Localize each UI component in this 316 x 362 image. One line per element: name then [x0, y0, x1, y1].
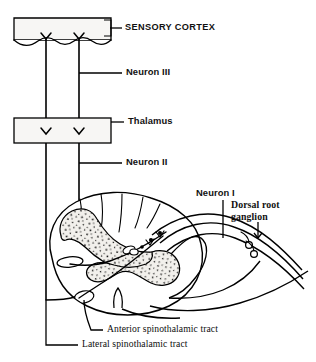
dorsal-horn-cell	[130, 249, 138, 255]
diagram-root: SENSORY CORTEX Neuron III Thalamus Neuro…	[0, 0, 316, 362]
label-neuron-i: Neuron I	[196, 188, 235, 199]
label-anterior-spinothalamic-tract: Anterior spinothalamic tract	[107, 324, 218, 335]
spinothalamic-tract-illustration	[0, 0, 316, 362]
thalamus-box	[14, 118, 111, 143]
label-neuron-ii: Neuron II	[126, 157, 168, 168]
neuron-iii-fibers	[46, 39, 79, 120]
label-lateral-spinothalamic-tract: Lateral spinothalamic tract	[82, 339, 188, 350]
label-dorsal-root-line2: ganglion	[231, 211, 280, 223]
dorsal-root-ganglion-cells	[246, 242, 258, 258]
label-dorsal-root-ganglion: Dorsal root ganglion	[231, 199, 280, 222]
sensory-cortex-box	[14, 18, 111, 45]
label-dorsal-root-line1: Dorsal root	[231, 199, 280, 211]
label-thalamus: Thalamus	[128, 116, 173, 127]
label-neuron-iii: Neuron III	[126, 67, 170, 78]
label-sensory-cortex: SENSORY CORTEX	[125, 22, 215, 32]
